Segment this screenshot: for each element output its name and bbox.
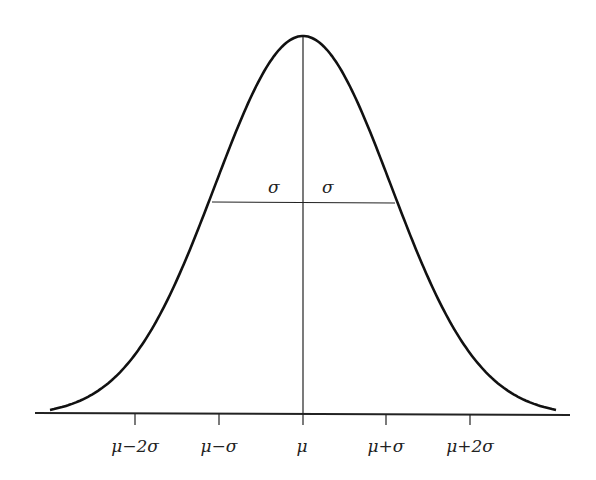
axis-label-mu-minus-2sigma: μ−2σ [111,436,159,456]
axis-label-mu-minus-sigma: μ−σ [201,436,238,456]
sigma-label-left: σ [268,177,280,197]
axis-label-mu-plus-2sigma: μ+2σ [446,436,494,456]
sigma-width-line [212,202,395,203]
axis-label-mu-plus-sigma: μ+σ [368,436,405,456]
normal-curve-diagram: σ σ μ−2σ μ−σ μ μ+σ μ+2σ [0,0,596,480]
axis-label-mu: μ [296,436,307,456]
sigma-label-right: σ [322,177,334,197]
